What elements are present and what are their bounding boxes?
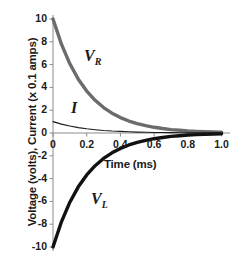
y-tick-label: 8 [21, 35, 47, 47]
series-label-vl: VL [91, 190, 108, 210]
x-tick-label: 0.8 [175, 138, 201, 150]
y-tick-label: -2 [21, 149, 47, 161]
y-tick-label: -10 [21, 240, 47, 252]
x-tick-label: 0 [40, 138, 66, 150]
y-tick-label: 4 [21, 80, 47, 92]
series-label-vl-sub: L [102, 199, 108, 210]
x-tick-label: 1.0 [209, 138, 235, 150]
x-tick-label: 0.4 [107, 138, 133, 150]
x-tick-label: 0.2 [74, 138, 100, 150]
series-label-vl-main: V [91, 190, 102, 207]
series-label-vr-sub: R [95, 56, 102, 67]
y-tick-label: -6 [21, 194, 47, 206]
series-label-i-main: I [71, 99, 77, 116]
y-tick-label: -8 [21, 217, 47, 229]
x-tick-label: 0.6 [141, 138, 167, 150]
y-tick-label: 0 [21, 126, 47, 138]
chart-container: Voltage (volts), Current (x 0.1 amps) Ti… [0, 0, 242, 269]
y-tick-label: -4 [21, 172, 47, 184]
y-tick-label: 10 [21, 12, 47, 24]
series-label-vr: VR [84, 47, 101, 67]
series-label-i: I [71, 99, 77, 117]
y-tick-label: 6 [21, 58, 47, 70]
y-tick-label: 2 [21, 103, 47, 115]
x-axis-label: Time (ms) [104, 158, 156, 170]
series-label-vr-main: V [84, 47, 95, 64]
